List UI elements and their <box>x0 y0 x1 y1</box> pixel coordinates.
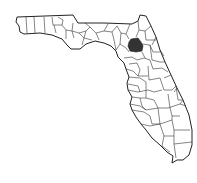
florida-county-map <box>0 0 197 183</box>
map-svg <box>0 0 197 183</box>
florida-outline <box>16 15 192 163</box>
